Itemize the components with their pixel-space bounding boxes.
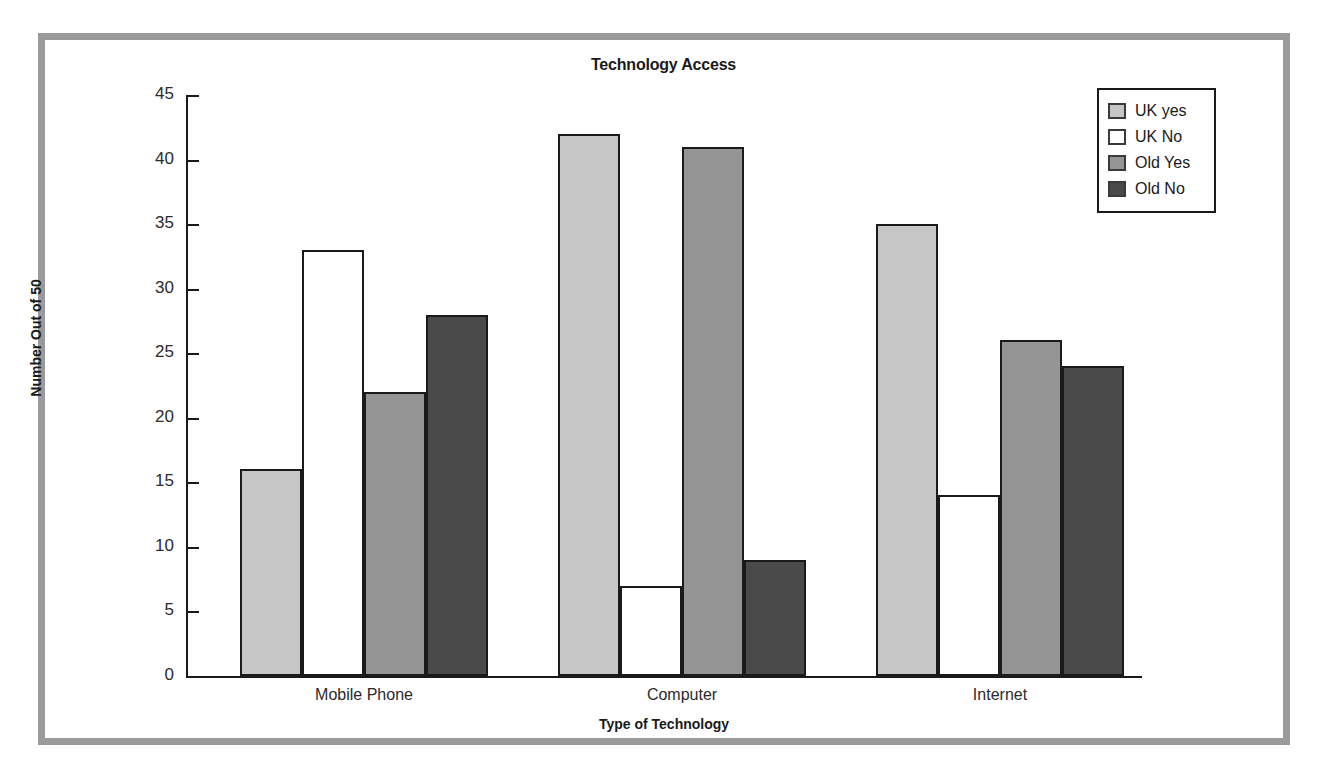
y-axis-tick-label: 40 — [114, 149, 174, 169]
bar — [744, 560, 806, 676]
legend-label: Old Yes — [1135, 154, 1190, 172]
legend-item: UK No — [1108, 124, 1205, 150]
legend-item: Old Yes — [1108, 150, 1205, 176]
legend-swatch-icon — [1108, 129, 1126, 145]
bar — [364, 392, 426, 676]
bar — [620, 586, 682, 676]
chart-title: Technology Access — [0, 56, 1327, 74]
legend-item: Old No — [1108, 176, 1205, 202]
bar — [240, 469, 302, 676]
y-axis-tick-label: 10 — [114, 536, 174, 556]
bar — [302, 250, 364, 676]
bar — [558, 134, 620, 676]
y-axis-tick-label: 15 — [114, 471, 174, 491]
y-axis-tick-label: 0 — [114, 665, 174, 685]
y-axis-tick-label: 30 — [114, 278, 174, 298]
legend-label: Old No — [1135, 180, 1185, 198]
legend-swatch-icon — [1108, 181, 1126, 197]
bar — [682, 147, 744, 676]
y-axis-title: Number Out of 50 — [28, 228, 44, 448]
x-axis-group-label: Computer — [552, 686, 812, 704]
legend-swatch-icon — [1108, 103, 1126, 119]
legend-item: UK yes — [1108, 98, 1205, 124]
x-axis-group-label: Internet — [870, 686, 1130, 704]
legend-label: UK yes — [1135, 102, 1187, 120]
x-axis-title: Type of Technology — [186, 716, 1142, 732]
bar — [938, 495, 1000, 676]
bar — [1062, 366, 1124, 676]
legend-swatch-icon — [1108, 155, 1126, 171]
plot-area — [186, 95, 1140, 676]
y-axis-tick — [188, 676, 199, 678]
y-axis-tick-label: 45 — [114, 84, 174, 104]
legend-label: UK No — [1135, 128, 1182, 146]
y-axis-tick-label: 25 — [114, 342, 174, 362]
y-axis-tick-label: 5 — [114, 600, 174, 620]
bar — [426, 315, 488, 677]
bar — [876, 224, 938, 676]
y-axis-tick-label: 35 — [114, 213, 174, 233]
y-axis-tick-label: 20 — [114, 407, 174, 427]
chart-page: Technology Access 051015202530354045 Num… — [0, 0, 1327, 782]
x-axis-line — [186, 676, 1142, 678]
chart-legend: UK yesUK NoOld YesOld No — [1097, 88, 1216, 213]
x-axis-group-label: Mobile Phone — [234, 686, 494, 704]
bar — [1000, 340, 1062, 676]
